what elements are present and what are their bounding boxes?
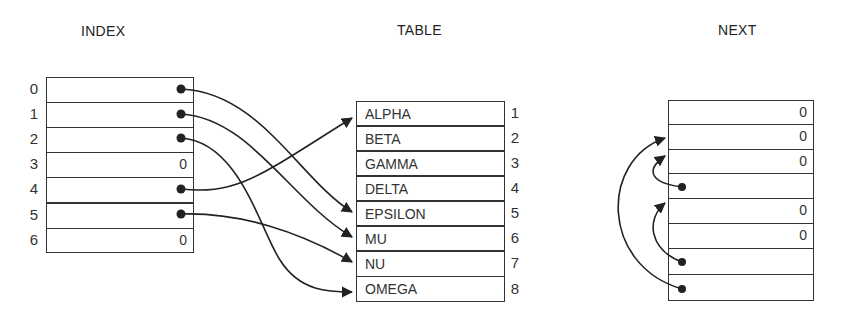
arrow-next8-to-next2 xyxy=(618,138,682,289)
pointer-dot xyxy=(678,285,686,293)
arrow-next4-to-next3 xyxy=(653,156,682,187)
arrow-next7-to-next5 xyxy=(653,203,682,262)
pointer-dot xyxy=(678,258,686,266)
pointer-dot xyxy=(177,185,186,194)
pointer-dot xyxy=(678,183,686,191)
pointer-dot xyxy=(177,110,186,119)
pointer-dot xyxy=(177,85,186,94)
pointer-arrows xyxy=(0,0,847,323)
arrow-index5-to-nu xyxy=(181,214,352,262)
arrow-index1-to-mu xyxy=(181,114,352,237)
pointer-dot xyxy=(177,134,186,143)
arrow-index0-to-epsilon xyxy=(181,89,352,212)
pointer-dot xyxy=(177,210,186,219)
